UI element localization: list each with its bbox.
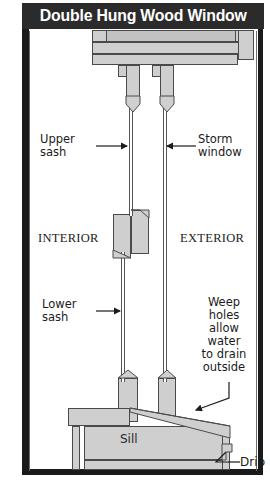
label-interior: INTERIOR [38,231,99,246]
sill-vertical-joint [222,426,230,470]
head-jamb-exterior-trim [238,30,254,60]
label-storm-window-line2: window [198,146,242,159]
exterior-wall-inner-line [256,31,257,471]
storm-window-top-rail [160,65,174,101]
label-weep-line6: outside [190,361,258,374]
label-exterior: EXTERIOR [180,231,244,246]
sill-slope-line [130,408,230,426]
label-lower-sash: Lower sash [42,298,76,324]
interior-stool-trim [68,408,130,426]
sill-body [84,426,230,460]
page-title: Double Hung Wood Window [40,6,247,26]
label-upper-sash-line2: sash [40,146,75,159]
weep-holes-leader [196,382,229,410]
interior-jamb-leg [72,426,80,470]
exterior-wall-border [258,29,263,474]
apron-below-sill [84,460,230,470]
label-lower-sash-line2: sash [42,311,76,324]
upper-sash-top-rail [126,65,140,101]
storm-window-bottom-rail [158,378,176,418]
head-jamb-bottom-band [92,54,238,65]
label-storm-window: Storm window [198,133,242,159]
diagram-title-bar: Double Hung Wood Window [22,3,264,29]
label-sill: Sill [120,432,138,446]
window-cross-section-diagram: Double Hung Wood Window [0,0,270,492]
upper-sash-glass [129,98,133,216]
head-jamb-lower-band [92,42,254,54]
interior-wall-inner-line [29,31,30,471]
interior-wall-border [22,29,29,474]
label-weep-holes: Weep holes allow water to drain outside [190,296,258,374]
upper-sash-bottom-rail-block [131,210,149,254]
head-jamb-blind-stop [106,30,236,42]
label-upper-sash: Upper sash [40,133,75,159]
storm-rail-shoulder [158,370,176,378]
storm-window-glass-upper [163,98,167,382]
lower-sash-glass [121,252,125,382]
label-drip: Drip [240,456,265,469]
